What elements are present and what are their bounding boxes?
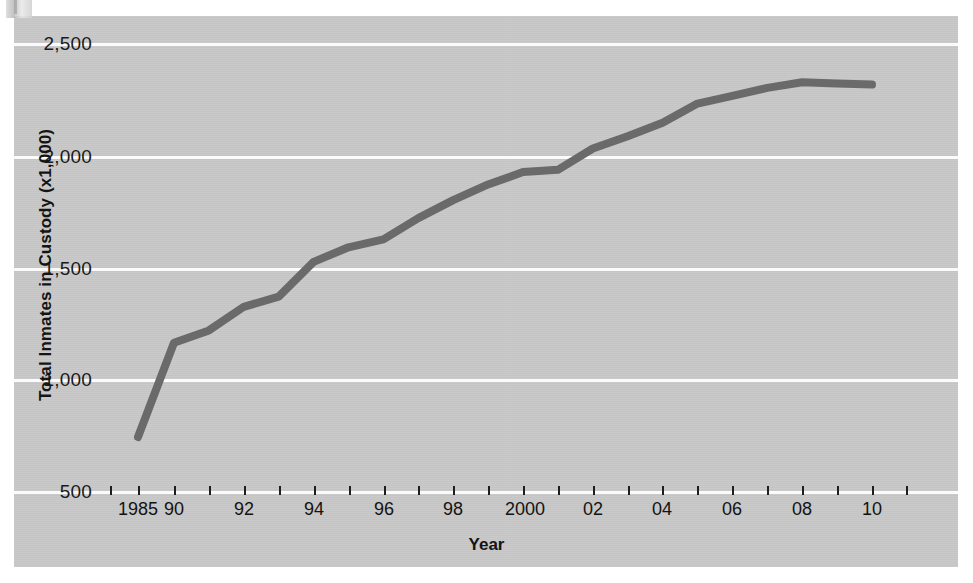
xtick-mark bbox=[558, 486, 560, 495]
plot-area: 2,500 2,000 1,500 1,000 500 Total Inmate… bbox=[0, 0, 973, 583]
x-axis-title: Year bbox=[0, 535, 973, 555]
xtick-mark bbox=[279, 486, 281, 495]
xtick-label-94: 94 bbox=[304, 499, 324, 520]
xtick-label-90: 90 bbox=[164, 499, 184, 520]
xtick-mark bbox=[488, 486, 490, 495]
xtick-mark bbox=[110, 486, 112, 495]
xtick-mark bbox=[767, 486, 769, 495]
xtick-mark bbox=[523, 486, 525, 495]
xtick-mark bbox=[872, 486, 874, 495]
xtick-label-96: 96 bbox=[374, 499, 394, 520]
xtick-mark bbox=[628, 486, 630, 495]
xtick-label-02: 02 bbox=[583, 499, 603, 520]
xtick-label-10: 10 bbox=[862, 499, 882, 520]
data-series-line bbox=[0, 0, 973, 583]
xtick-mark bbox=[662, 486, 664, 495]
xtick-mark bbox=[906, 486, 908, 495]
chart-figure: 2,500 2,000 1,500 1,000 500 Total Inmate… bbox=[0, 0, 973, 583]
xtick-label-98: 98 bbox=[443, 499, 463, 520]
xtick-mark bbox=[418, 486, 420, 495]
xtick-mark bbox=[244, 486, 246, 495]
xtick-mark bbox=[349, 486, 351, 495]
xtick-label-06: 06 bbox=[722, 499, 742, 520]
xtick-label-1985: 1985 bbox=[118, 499, 158, 520]
xtick-label-2000: 2000 bbox=[505, 499, 545, 520]
xtick-mark bbox=[209, 486, 211, 495]
xtick-label-04: 04 bbox=[652, 499, 672, 520]
xtick-mark bbox=[732, 486, 734, 495]
xtick-mark bbox=[138, 486, 140, 495]
xtick-mark bbox=[174, 486, 176, 495]
xtick-mark bbox=[697, 486, 699, 495]
xtick-mark bbox=[384, 486, 386, 495]
xtick-mark bbox=[593, 486, 595, 495]
xtick-mark bbox=[837, 486, 839, 495]
xtick-label-92: 92 bbox=[234, 499, 254, 520]
xtick-mark bbox=[453, 486, 455, 495]
xtick-label-08: 08 bbox=[792, 499, 812, 520]
xtick-mark bbox=[314, 486, 316, 495]
xtick-mark bbox=[802, 486, 804, 495]
